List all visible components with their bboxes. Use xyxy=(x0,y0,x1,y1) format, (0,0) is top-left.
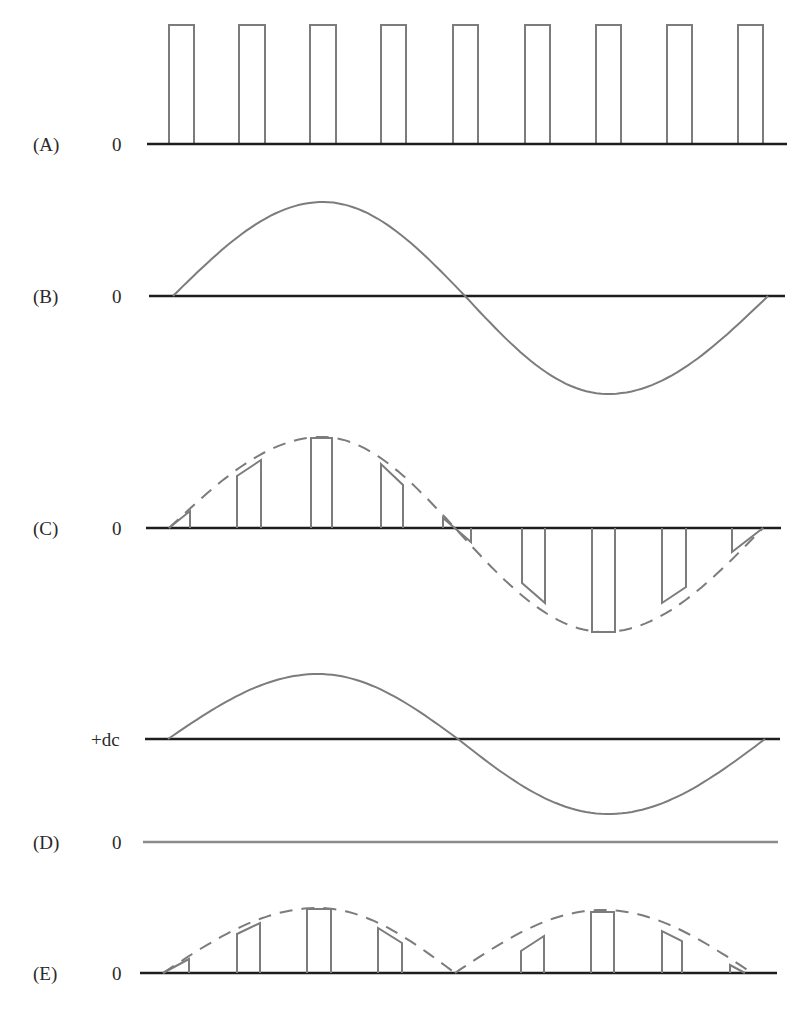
dashed-envelope xyxy=(163,908,455,973)
panel-b-graph xyxy=(149,202,785,394)
panel-label-d: (D) xyxy=(33,833,59,852)
sampling-pulse xyxy=(596,25,621,144)
pam-sample xyxy=(378,928,402,973)
sampling-pulse xyxy=(169,25,194,144)
pam-sample xyxy=(662,931,682,973)
panel-d-graph xyxy=(143,674,780,842)
panel-label-e: (E) xyxy=(33,964,57,983)
sampling-pulse xyxy=(239,25,265,144)
dashed-envelope xyxy=(169,437,763,632)
pam-sample xyxy=(237,923,260,973)
zero-label-c: 0 xyxy=(112,519,122,538)
zero-label-a: 0 xyxy=(112,135,122,154)
panel-e-graph xyxy=(140,908,777,973)
sampling-pulse xyxy=(381,25,406,144)
pam-sample xyxy=(237,460,261,528)
pam-sample xyxy=(592,528,615,632)
panel-a-graph xyxy=(147,25,787,144)
panel-c-graph xyxy=(146,437,781,632)
dashed-envelope xyxy=(455,910,752,973)
pam-sample xyxy=(591,912,614,973)
pam-sample xyxy=(662,528,686,603)
panel-label-b: (B) xyxy=(33,287,58,306)
pam-sample xyxy=(163,959,189,973)
sampling-pulse xyxy=(667,25,692,144)
sampling-pulse xyxy=(525,25,550,144)
pam-sample xyxy=(307,909,331,973)
zero-label-b: 0 xyxy=(112,287,122,306)
zero-label-d: 0 xyxy=(112,833,122,852)
sine-wave xyxy=(173,202,768,394)
sampling-pulse xyxy=(453,25,478,144)
sampling-pulse xyxy=(738,25,763,144)
pam-sample xyxy=(732,528,763,552)
dc-level-label: +dc xyxy=(91,730,120,749)
pam-sample xyxy=(443,518,471,542)
zero-label-e: 0 xyxy=(112,964,122,983)
pam-sample xyxy=(169,511,190,528)
panel-label-c: (C) xyxy=(33,519,58,538)
panel-label-a: (A) xyxy=(33,135,59,154)
dc-offset-sine-wave xyxy=(168,674,765,814)
pam-sample xyxy=(521,936,544,973)
pam-sample xyxy=(311,438,332,528)
pam-sampling-figure: (A) 0 (B) 0 (C) 0 +dc (D) 0 (E) 0 xyxy=(0,0,809,1013)
pam-sample xyxy=(522,528,545,603)
sampling-pulse xyxy=(310,25,336,144)
